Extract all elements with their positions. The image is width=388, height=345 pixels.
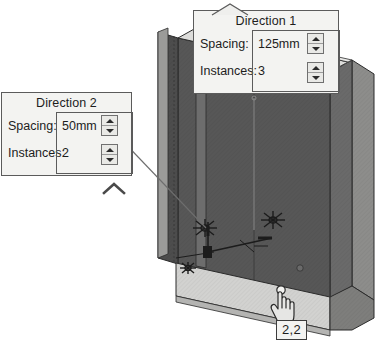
callout-direction-1[interactable]: Direction 1 Spacing: 125mm Instances: 3	[193, 10, 339, 94]
direction-1-instances-stepper-down[interactable]	[308, 72, 323, 82]
direction-1-spacing-value[interactable]: 125mm	[252, 37, 338, 51]
chevron-up-icon-direction-2[interactable]	[101, 180, 127, 196]
callout-direction-2-title: Direction 2	[2, 93, 131, 112]
direction-2-instances-stepper-down[interactable]	[102, 154, 117, 164]
callout-direction-2[interactable]: Direction 2 Spacing: 50mm Instances: 2	[1, 92, 132, 176]
direction-1-instances-value[interactable]: 3	[252, 64, 338, 78]
direction-1-spacing-label: Spacing:	[194, 37, 252, 51]
status-badge-instance-count: 2,2	[276, 320, 307, 340]
direction-2-instances-stepper-up[interactable]	[102, 145, 117, 154]
callout-direction-2-body: Spacing: 50mm Instances: 2	[2, 112, 131, 166]
direction-1-instances-label: Instances:	[194, 64, 252, 78]
direction-2-instances-label: Instances:	[2, 146, 56, 160]
direction-2-spacing-label: Spacing:	[2, 119, 56, 133]
direction-1-spacing-stepper[interactable]	[307, 33, 324, 54]
model-left-flange	[158, 28, 178, 264]
direction-1-spacing-stepper-down[interactable]	[308, 43, 323, 53]
direction-2-instances-value[interactable]: 2	[56, 146, 131, 160]
model-hole	[297, 265, 303, 271]
direction-1-instances-stepper[interactable]	[307, 62, 324, 83]
direction-2-spacing-stepper[interactable]	[101, 115, 118, 136]
direction-1-spacing-stepper-up[interactable]	[308, 34, 323, 43]
model-right-wall	[330, 60, 374, 300]
direction-2-spacing-value[interactable]: 50mm	[56, 119, 131, 133]
chevron-up-icon-direction-1[interactable]	[210, 2, 250, 16]
cad-viewport-screenshot: Direction 1 Spacing: 125mm Instances: 3	[0, 0, 388, 345]
direction-2-spacing-stepper-up[interactable]	[102, 116, 117, 125]
direction-1-instances-stepper-up[interactable]	[308, 63, 323, 72]
direction-2-instances-stepper[interactable]	[101, 144, 118, 165]
callout-direction-1-body: Spacing: 125mm Instances: 3	[194, 30, 338, 84]
direction-2-spacing-stepper-down[interactable]	[102, 125, 117, 135]
